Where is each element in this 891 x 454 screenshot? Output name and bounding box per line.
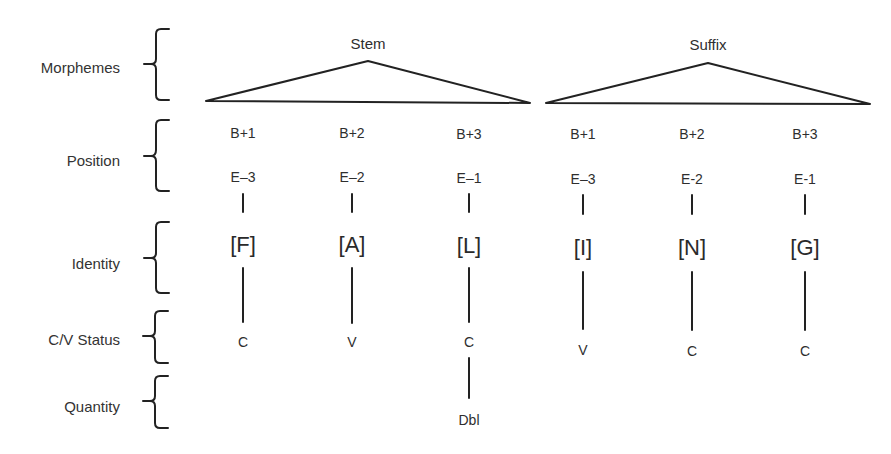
- segment-identity: [N]: [678, 235, 706, 261]
- begin-position: B+2: [339, 125, 364, 141]
- bracket-identity: [144, 222, 169, 293]
- end-position: E–3: [231, 169, 256, 185]
- cv-status: V: [578, 342, 587, 358]
- cv-status: C: [800, 343, 810, 359]
- begin-position: B+2: [679, 126, 704, 142]
- diagram-lines: [0, 0, 891, 454]
- bracket-position: [144, 120, 169, 191]
- end-position: E–1: [457, 170, 482, 186]
- stem-triangle: [206, 61, 530, 103]
- begin-position: B+3: [792, 126, 817, 142]
- bracket-cv-status: [143, 311, 168, 363]
- segment-identity: [A]: [339, 232, 366, 258]
- segment-identity: [F]: [230, 232, 256, 258]
- cv-status: C: [464, 334, 474, 350]
- morpheme-label-stem: Stem: [350, 35, 385, 52]
- end-position: E–3: [571, 171, 596, 187]
- suffix-triangle: [546, 63, 870, 104]
- cv-status: C: [687, 343, 697, 359]
- begin-position: B+1: [230, 125, 255, 141]
- quantity: Dbl: [458, 412, 479, 428]
- segment-identity: [I]: [574, 235, 592, 261]
- begin-position: B+1: [570, 126, 595, 142]
- bracket-morphemes: [144, 29, 169, 100]
- bracket-quantity: [143, 376, 168, 428]
- segment-identity: [L]: [457, 233, 481, 259]
- end-position: E-1: [794, 171, 816, 187]
- end-position: E-2: [681, 171, 703, 187]
- cv-status: C: [238, 334, 248, 350]
- row-label-identity: Identity: [0, 255, 120, 272]
- end-position: E–2: [340, 169, 365, 185]
- row-label-morphemes: Morphemes: [0, 59, 120, 76]
- begin-position: B+3: [456, 126, 481, 142]
- morpheme-label-suffix: Suffix: [689, 36, 726, 53]
- cv-status: V: [347, 334, 356, 350]
- row-label-cv-status: C/V Status: [0, 331, 120, 348]
- row-label-quantity: Quantity: [0, 398, 120, 415]
- segment-identity: [G]: [790, 235, 819, 261]
- row-label-position: Position: [0, 152, 120, 169]
